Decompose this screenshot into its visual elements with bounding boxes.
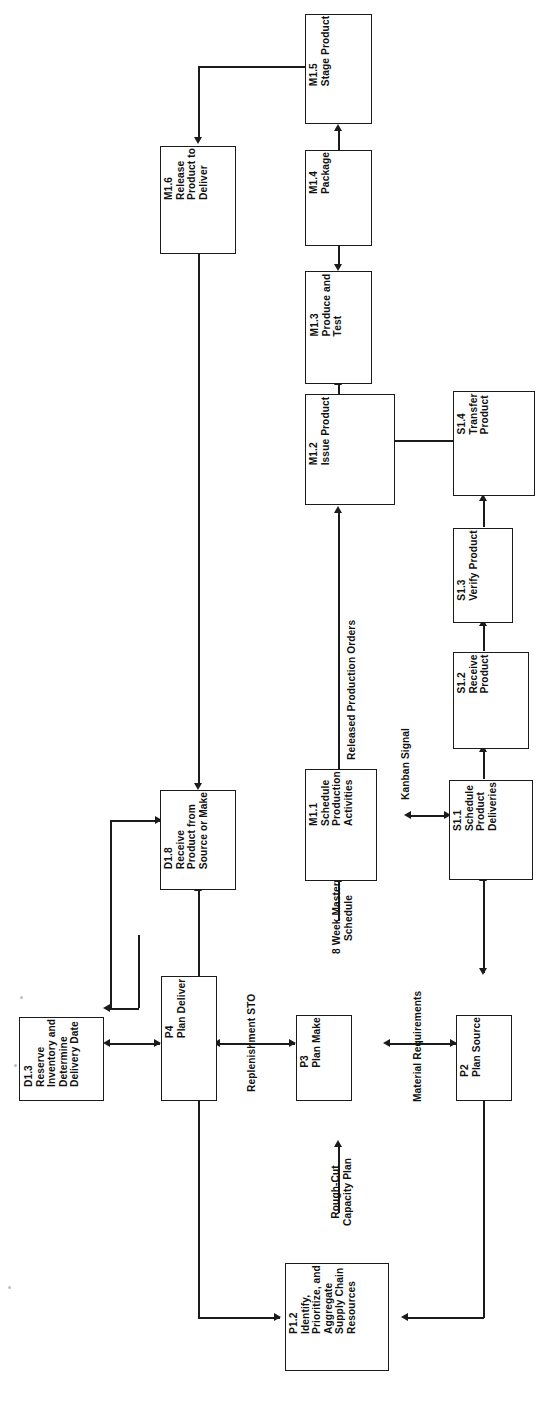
arrowhead-into-m13 (334, 264, 342, 271)
edge-label-kanban-signal: Kanban Signal (400, 728, 412, 800)
process-flow-diagram: M1.5 Stage Product M1.6 Release Product … (0, 0, 550, 1404)
node-m1-6-label: M1.6 Release Product to Deliver (163, 148, 209, 200)
arrowhead-into-m12-orders (334, 506, 342, 513)
node-m1-2-label: M1.2 Issue Product (308, 396, 331, 465)
edge-p4-to-p12-vert (198, 1100, 200, 1318)
node-d1-3-label: D1.3 Reserve Inventory and Determine Del… (22, 1019, 80, 1087)
edge-s13-to-s14 (483, 500, 485, 527)
edge-s11-to-s12 (483, 751, 485, 779)
arrowhead-into-p3 (334, 1140, 342, 1147)
node-d1-8-label: D1.8 Receive Product from Source or Make (163, 792, 209, 869)
node-p1-2-label: P1.2 Identify, Prioritize, and Aggregate… (288, 1265, 358, 1334)
node-m1-4-label: M1.4 Package (308, 152, 331, 194)
edge-p4-to-d18-vert (110, 820, 112, 1009)
edge-label-replenishment-sto: Replenishment STO (246, 994, 258, 1092)
node-s1-1-label: S1.1 Schedule Product Deliveries (452, 782, 498, 831)
node-d1-8[interactable]: D1.8 Receive Product from Source or Make (160, 790, 236, 890)
scan-speck (20, 996, 23, 999)
node-m1-4[interactable]: M1.4 Package (305, 150, 372, 246)
edge-s14-to-m12 (395, 440, 454, 442)
edge-label-rough-cut-capacity-plan: Rough-Cut Capacity Plan (330, 1158, 354, 1226)
node-m1-3-label: M1.3 Produce and Test (308, 273, 343, 336)
node-d1-3[interactable]: D1.3 Reserve Inventory and Determine Del… (19, 1017, 104, 1101)
edge-kanban-signal (408, 815, 448, 817)
edge-m15-to-m16-vert (198, 66, 200, 140)
node-m1-5[interactable]: M1.5 Stage Product (305, 14, 372, 124)
edge-s12-to-s13 (483, 625, 485, 651)
edge-label-released-production-orders: Released Production Orders (346, 620, 358, 760)
node-p3[interactable]: P3 Plan Make (296, 1015, 352, 1101)
edge-p4-top-stub (198, 964, 200, 976)
node-p4-label: P4 Plan Deliver (164, 978, 187, 1038)
node-p4[interactable]: P4 Plan Deliver (161, 976, 217, 1101)
edge-label-material-requirements: Material Requirements (412, 991, 424, 1102)
node-p2[interactable]: P2 Plan Source (456, 1015, 512, 1101)
arrowhead-into-d13 (103, 1039, 110, 1047)
node-s1-3[interactable]: S1.3 Verify Product (453, 528, 513, 623)
node-s1-4[interactable]: S1.4 Transfer Product (453, 391, 535, 496)
node-p3-label: P3 Plan Make (299, 1017, 322, 1068)
node-s1-1[interactable]: S1.1 Schedule Product Deliveries (449, 780, 533, 880)
node-p1-2[interactable]: P1.2 Identify, Prioritize, and Aggregate… (285, 1263, 389, 1371)
node-s1-2[interactable]: S1.2 Receive Product (453, 652, 529, 749)
arrowhead-into-p3-sto (289, 1039, 296, 1047)
arrowhead-into-p12-right (401, 1313, 408, 1321)
arrowhead-into-m11-kanban (404, 811, 411, 819)
edge-label-8-week-master-schedule: 8 Week Master Schedule (331, 882, 355, 954)
edge-p4-to-d18-direct (198, 890, 200, 964)
edge-p2-to-p12-horiz (406, 1317, 484, 1319)
node-s1-4-label: S1.4 Transfer Product (456, 393, 491, 434)
arrowhead-into-d18 (194, 783, 202, 790)
arrowhead-into-p4 (154, 1039, 161, 1047)
node-m1-5-label: M1.5 Stage Product (308, 16, 331, 86)
edge-into-d18-left (110, 820, 160, 822)
arrowhead-into-p3-mr (383, 1039, 390, 1047)
scan-speck (14, 1064, 17, 1067)
node-m1-1-label: M1.1 Schedule Production Activities (308, 771, 354, 826)
node-p2-label: P2 Plan Source (459, 1017, 482, 1077)
edge-p2-s11 (483, 880, 485, 973)
edge-down-to-d13 (138, 935, 140, 1008)
arrowhead-into-p2 (479, 968, 487, 975)
node-s1-3-label: S1.3 Verify Product (456, 530, 479, 600)
edge-p2-to-p12-vert (483, 1100, 485, 1318)
edge-d13-p4 (108, 1043, 160, 1045)
edge-p4-to-p12-horiz (198, 1317, 280, 1319)
edge-m16-to-d18 (198, 253, 200, 786)
scan-speck (8, 1286, 11, 1289)
arrowhead-into-m16 (194, 137, 202, 144)
node-m1-1[interactable]: M1.1 Schedule Production Activities (305, 769, 377, 881)
node-m1-6[interactable]: M1.6 Release Product to Deliver (160, 146, 236, 254)
edge-m14-to-m15 (338, 128, 340, 152)
arrowhead-into-p12-left (274, 1313, 281, 1321)
edge-m15-to-m16 (198, 66, 305, 68)
arrowhead-into-d13-upper (103, 1004, 110, 1012)
node-s1-2-label: S1.2 Receive Product (456, 654, 491, 693)
node-m1-3[interactable]: M1.3 Produce and Test (305, 271, 372, 384)
arrowhead-into-m15 (334, 124, 342, 131)
edge-released-production-orders (338, 512, 340, 784)
edge-elbow-to-d13 (108, 1008, 139, 1010)
node-m1-2[interactable]: M1.2 Issue Product (305, 394, 395, 505)
